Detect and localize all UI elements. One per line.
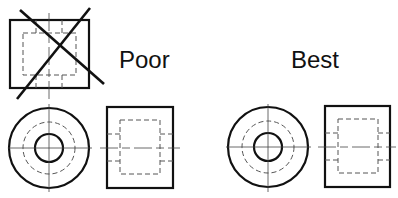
best-circular-view <box>226 104 311 192</box>
poor-label: Poor <box>119 48 170 72</box>
outer-rectangle <box>10 20 89 88</box>
poor-circular-view <box>8 104 92 192</box>
hidden-inner-rectangle <box>120 120 160 174</box>
hidden-inner-rectangle <box>338 119 378 173</box>
outer-rectangle <box>107 107 173 188</box>
best-side-view <box>318 106 396 187</box>
drawing-canvas <box>0 0 398 198</box>
poor-side-view <box>100 107 180 188</box>
cross-out-icon <box>17 8 90 99</box>
best-label: Best <box>291 48 339 72</box>
outer-rectangle <box>325 106 390 187</box>
poor-top-view <box>10 8 104 100</box>
